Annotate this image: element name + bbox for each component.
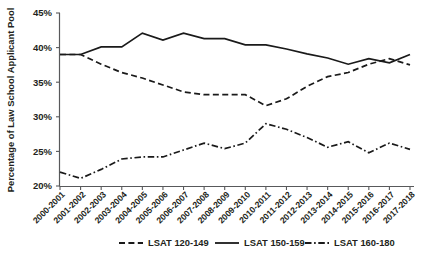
y-tick-label: 40%: [33, 42, 53, 53]
legend-label-1: LSAT 150-159: [244, 237, 305, 248]
legend-label-2: LSAT 160-180: [334, 237, 395, 248]
series-line-1: [60, 33, 410, 64]
y-axis-title: Percentage of Law School Applicant Pool: [5, 8, 16, 193]
y-axis-ticks: 20%25%30%35%40%45%: [33, 7, 60, 191]
y-tick-label: 20%: [33, 180, 53, 191]
y-tick-label: 45%: [33, 7, 53, 18]
y-axis-title-group: Percentage of Law School Applicant Pool: [5, 8, 16, 193]
data-series-group: [60, 33, 410, 178]
chart-canvas: Percentage of Law School Applicant Pool …: [0, 0, 421, 262]
series-line-2: [60, 124, 410, 179]
line-chart: Percentage of Law School Applicant Pool …: [0, 0, 421, 262]
y-tick-label: 30%: [33, 111, 53, 122]
chart-legend: LSAT 120-149LSAT 150-159LSAT 160-180: [119, 237, 395, 248]
y-tick-label: 35%: [33, 77, 53, 88]
legend-label-0: LSAT 120-149: [148, 237, 209, 248]
x-axis-ticks: 2000-20012001-20022002-20032003-20042004…: [31, 186, 417, 225]
y-tick-label: 25%: [33, 146, 53, 157]
